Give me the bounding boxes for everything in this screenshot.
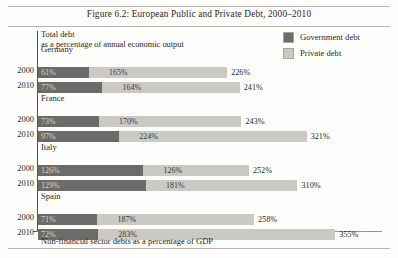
bar-segment-government: 71% <box>38 214 97 225</box>
bar-value-government: 71% <box>41 214 56 225</box>
bar-segment-private: 181% <box>146 180 297 191</box>
bar-row: 61%165% <box>38 67 227 78</box>
bar-segment-private: 126% <box>143 165 248 176</box>
bar-value-private: 224% <box>139 131 158 142</box>
group-label-germany: Germany <box>41 44 73 54</box>
legend-item-private-debt: Private debt <box>283 46 360 62</box>
year-label-france-2000: 2000 <box>2 115 34 124</box>
legend-label-private-debt: Private debt <box>300 46 341 62</box>
bar-segment-private: 187% <box>97 214 254 225</box>
bar-total-label: 321% <box>311 131 330 142</box>
bar-segment-private: 170% <box>99 116 241 127</box>
bar-segment-private: 165% <box>89 67 227 78</box>
title-divider <box>8 26 390 27</box>
bar-value-government: 77% <box>41 82 56 93</box>
bar-row: 97%224% <box>38 131 307 142</box>
year-label-italy-2010: 2010 <box>2 179 34 188</box>
group-label-italy: Italy <box>41 142 57 152</box>
bar-value-private: 126% <box>163 165 182 176</box>
year-label-spain-2010: 2010 <box>2 228 34 237</box>
bar-value-government: 97% <box>41 131 56 142</box>
bar-row: 73%170% <box>38 116 241 127</box>
bar-total-label: 243% <box>245 116 264 127</box>
bar-total-label: 241% <box>244 82 263 93</box>
bar-segment-government: 77% <box>38 82 102 93</box>
bar-row: 77%164% <box>38 82 240 93</box>
bottom-divider <box>8 248 390 249</box>
bar-value-government: 73% <box>41 116 56 127</box>
bar-value-private: 164% <box>122 82 141 93</box>
bar-value-private: 187% <box>117 214 136 225</box>
legend-item-government-debt: Government debt <box>283 30 360 46</box>
bar-segment-government: 97% <box>38 131 119 142</box>
chart-plot-area: Total debt as a percentage of annual eco… <box>0 28 398 243</box>
bar-row: 126%126% <box>38 165 249 176</box>
chart-footnote: Non-financial sector debts as a percenta… <box>41 236 213 246</box>
group-label-spain: Spain <box>41 191 61 201</box>
chart-legend: Government debt Private debt <box>283 30 360 61</box>
bar-total-label: 258% <box>258 214 277 225</box>
bar-value-private: 165% <box>109 67 128 78</box>
bar-segment-private: 224% <box>119 131 306 142</box>
figure-container: Figure 6.2: European Public and Private … <box>0 0 398 258</box>
legend-swatch-government-debt <box>283 32 294 43</box>
top-divider <box>8 6 390 7</box>
figure-title: Figure 6.2: European Public and Private … <box>0 9 398 19</box>
bar-value-government: 61% <box>41 67 56 78</box>
year-label-spain-2000: 2000 <box>2 213 34 222</box>
bar-segment-government: 129% <box>38 180 146 191</box>
bar-segment-government: 61% <box>38 67 89 78</box>
bar-segment-government: 126% <box>38 165 143 176</box>
bar-segment-government: 73% <box>38 116 99 127</box>
bar-value-government: 129% <box>41 180 60 191</box>
bar-value-government: 126% <box>41 165 60 176</box>
group-label-france: France <box>41 93 64 103</box>
bar-total-label: 252% <box>253 165 272 176</box>
bar-segment-private: 164% <box>102 82 239 93</box>
year-label-france-2010: 2010 <box>2 130 34 139</box>
bar-total-label: 226% <box>231 67 250 78</box>
bar-total-label: 355% <box>339 229 358 240</box>
legend-swatch-private-debt <box>283 48 294 59</box>
bar-row: 71%187% <box>38 214 254 225</box>
bar-total-label: 310% <box>301 180 320 191</box>
year-label-germany-2010: 2010 <box>2 81 34 90</box>
bar-value-private: 181% <box>166 180 185 191</box>
subtitle-line-1: Total debt <box>41 30 184 40</box>
year-label-italy-2000: 2000 <box>2 164 34 173</box>
bar-row: 129%181% <box>38 180 297 191</box>
bar-value-private: 170% <box>119 116 138 127</box>
year-label-germany-2000: 2000 <box>2 66 34 75</box>
legend-label-government-debt: Government debt <box>300 30 360 46</box>
